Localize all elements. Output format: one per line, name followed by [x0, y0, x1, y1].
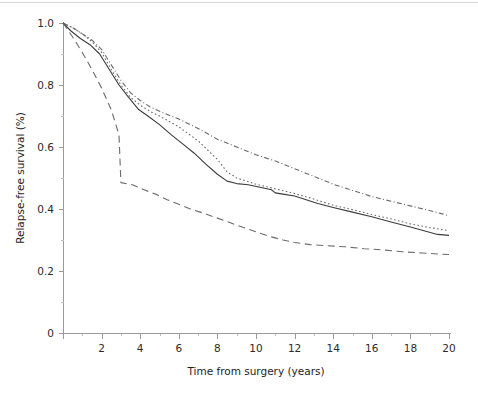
survival-curve-chart: 00.20.40.60.81.0 2468101214161820 Time f…: [0, 0, 478, 394]
x-tick-label: 4: [137, 342, 144, 354]
x-tick-label: 14: [327, 342, 341, 354]
x-tick-label: 20: [442, 342, 455, 354]
x-tick-label: 18: [404, 342, 417, 354]
y-tick-label: 0.6: [37, 141, 54, 153]
x-tick-labels-group: 2468101214161820: [98, 342, 455, 354]
x-tick-label: 10: [249, 342, 262, 354]
series-3-solid: [63, 23, 449, 235]
axes-group: [64, 22, 452, 334]
y-axis-title: Relapse-free survival (%): [14, 112, 26, 244]
x-tick-label: 6: [175, 342, 182, 354]
y-tick-labels-group: 00.20.40.60.81.0: [37, 17, 54, 339]
y-tick-label: 0.2: [37, 265, 54, 277]
x-tick-label: 12: [288, 342, 301, 354]
series-4-dashed: [63, 23, 449, 255]
y-tick-label: 1.0: [37, 17, 54, 29]
y-tick-label: 0: [47, 327, 54, 339]
tick-marks-group: [59, 24, 450, 339]
figure-canvas: 00.20.40.60.81.0 2468101214161820 Time f…: [0, 0, 478, 394]
y-tick-label: 0.4: [37, 203, 54, 215]
y-tick-label: 0.8: [37, 79, 54, 91]
x-tick-label: 2: [98, 342, 105, 354]
data-curves-group: [63, 23, 449, 255]
x-tick-label: 8: [214, 342, 221, 354]
series-2-dotted: [63, 23, 449, 231]
x-tick-label: 16: [365, 342, 379, 354]
x-axis-title: Time from surgery (years): [186, 365, 324, 377]
